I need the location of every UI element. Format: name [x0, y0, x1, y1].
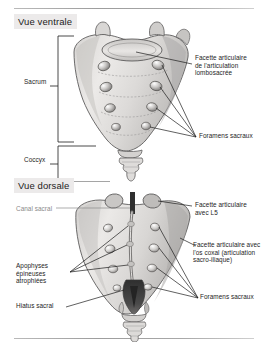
- panel-vue-dorsale: Vue dorsale: [0, 176, 268, 342]
- label-canal-sacral: Canal sacral: [16, 205, 52, 213]
- spinous-tubercle-1: [128, 221, 135, 226]
- label-facette-l5: Facette articulaire avec L5: [195, 201, 267, 216]
- dorsal-sacrum-body: [76, 192, 190, 342]
- panel-vue-ventrale: Vue ventrale: [0, 10, 268, 178]
- ventral-sacrum-body: [74, 22, 190, 181]
- spinous-tubercle-2: [127, 241, 134, 246]
- foramen-dorsal-right-4: [144, 284, 152, 290]
- label-foramens-sacraux-dorsal: Foramens sacraux: [200, 293, 266, 301]
- label-hiatus-sacral: Hiatus sacral: [16, 302, 54, 310]
- spinous-tubercle-3: [128, 261, 135, 266]
- sacral-apex-dorsal: [122, 314, 146, 322]
- sacral-cornu-right: [145, 302, 150, 314]
- figure-page: Vue ventrale: [0, 0, 268, 352]
- sacral-apex: [118, 150, 142, 158]
- lumbosacral-facet: [102, 39, 162, 61]
- articular-process-left: [95, 22, 110, 36]
- foramen-ventral-right-4: [141, 122, 150, 130]
- label-facette-os-coxal: Facette articulaire avec l'os coxal (art…: [193, 241, 268, 264]
- foramen-dorsal-left-4: [113, 285, 121, 291]
- label-facette-lombosacree: Facette articulaire de l'articulation lo…: [195, 54, 267, 77]
- foramen-ventral-left-4: [112, 123, 121, 130]
- coccyx-dorsal: [123, 322, 146, 342]
- bracket-sacrum: [50, 36, 74, 142]
- label-sacrum: Sacrum: [24, 78, 46, 86]
- label-coccyx: Coccyx: [24, 156, 45, 164]
- top-divider-rule: [14, 8, 254, 9]
- articular-process-right: [149, 22, 164, 36]
- foramen-dorsal-right-3: [147, 264, 157, 272]
- label-foramens-sacraux-ventral: Foramens sacraux: [199, 132, 267, 140]
- label-apophyses-epineuses: Apophyses épineuses atrophiées: [16, 262, 72, 285]
